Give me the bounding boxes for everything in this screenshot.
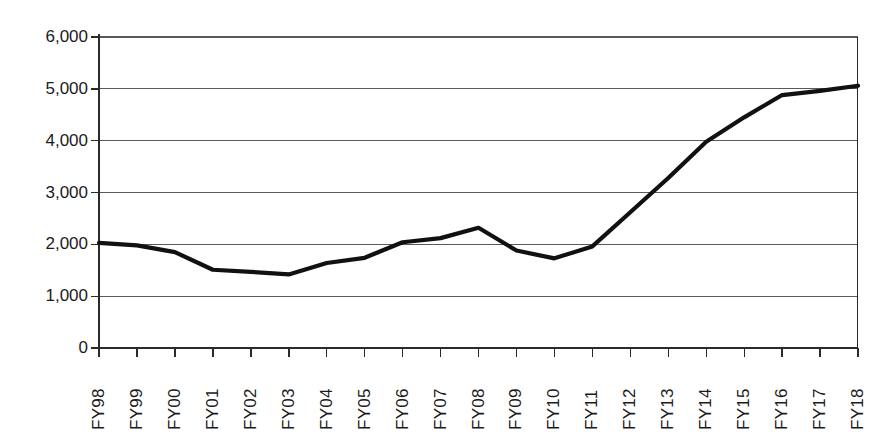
x-axis-tick-label: FY14 [697, 360, 715, 430]
x-axis-tick-label: FY05 [356, 360, 374, 430]
x-axis-tick-label: FY17 [811, 360, 829, 430]
x-axis-tick-label: FY16 [773, 360, 791, 430]
x-axis-tick-label: FY00 [166, 360, 184, 430]
x-axis-tick-label: FY04 [318, 360, 336, 430]
x-axis-tick-label: FY18 [849, 360, 867, 430]
line-chart: 6,0005,0004,0003,0002,0001,0000 FY98FY99… [0, 0, 882, 437]
x-axis-tick-label: FY15 [735, 360, 753, 430]
x-axis-tick-label: FY02 [242, 360, 260, 430]
x-axis-tick-label: FY03 [280, 360, 298, 430]
x-axis-tick-label: FY99 [128, 360, 146, 430]
x-axis-tick-label: FY10 [545, 360, 563, 430]
x-axis-tick-label: FY08 [470, 360, 488, 430]
x-axis-tick-label: FY07 [432, 360, 450, 430]
x-axis-tick-label: FY01 [204, 360, 222, 430]
x-axis-labels: FY98FY99FY00FY01FY02FY03FY04FY05FY06FY07… [0, 0, 882, 437]
x-axis-tick-label: FY11 [583, 360, 601, 430]
x-axis-tick-label: FY06 [394, 360, 412, 430]
x-axis-tick-label: FY98 [90, 360, 108, 430]
x-axis-tick-label: FY09 [507, 360, 525, 430]
x-axis-tick-label: FY12 [621, 360, 639, 430]
x-axis-tick-label: FY13 [659, 360, 677, 430]
